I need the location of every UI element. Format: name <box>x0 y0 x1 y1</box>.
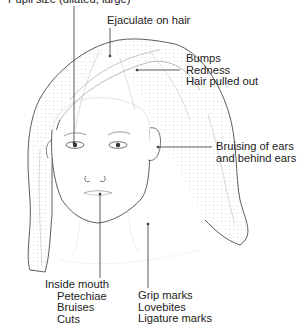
pupil-label: Pupil size (dilated, large) <box>8 0 131 6</box>
scalp-findings-label: Bumps Redness Hair pulled out <box>186 53 258 88</box>
neck-findings-label: Grip marks Lovebites Ligature marks <box>138 290 212 325</box>
inside-mouth-label: Inside mouth Petechiae Bruises Cuts <box>45 279 109 325</box>
ear-bruising-label: Bruising of ears and behind ears <box>216 141 296 164</box>
diagram-canvas: Pupil size (dilated, large) Ejaculate on… <box>0 0 306 326</box>
ejaculate-on-hair-label: Ejaculate on hair <box>107 15 190 27</box>
